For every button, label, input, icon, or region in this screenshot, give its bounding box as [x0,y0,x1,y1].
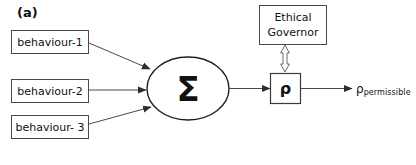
behaviour-1-box [12,31,89,54]
ethical-governor-box [260,6,327,45]
summation-ellipse [147,57,229,120]
edge-behaviour-3 [89,107,151,124]
behaviour-3-box [12,116,89,139]
rho-box [271,74,301,104]
edge-behaviour-1 [89,43,150,69]
figure-panel-a: (a) behaviour-1 behaviour-2 behaviour- 3… [0,0,416,165]
behaviour-2-box [12,80,89,103]
edge-rho-to-governor-hollow-arrow [281,45,290,72]
diagram-canvas [0,0,416,165]
